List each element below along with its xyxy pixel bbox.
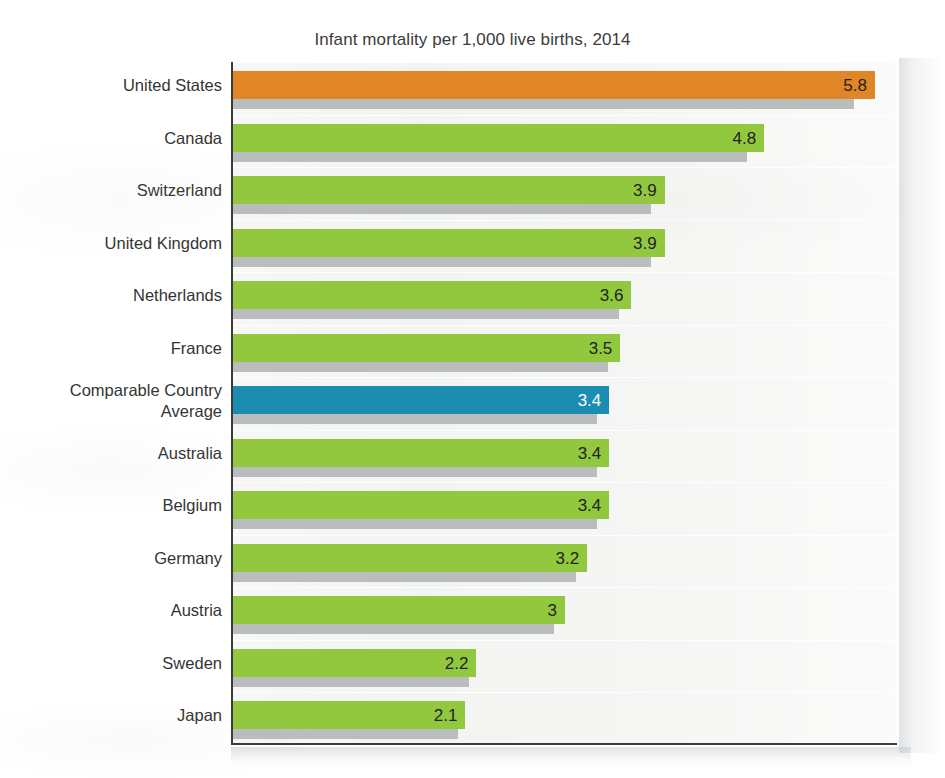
category-label: Canada (0, 128, 222, 149)
gridline (233, 587, 897, 588)
bar-shadow (233, 309, 619, 319)
category-label: Switzerland (0, 180, 222, 201)
category-label: Austria (0, 600, 222, 621)
gridline (233, 692, 897, 693)
bar-row: United States5.8 (0, 62, 945, 115)
bar-row: Comparable CountryAverage3.4 (0, 377, 945, 430)
category-label: Netherlands (0, 285, 222, 306)
bar-shadow (233, 729, 458, 739)
bar-value-label: 5.8 (843, 77, 867, 94)
bar-row: Netherlands3.6 (0, 272, 945, 325)
category-label: Comparable CountryAverage (0, 380, 222, 422)
gridline (233, 115, 897, 116)
gridline (233, 325, 897, 326)
category-label: France (0, 338, 222, 359)
bar[interactable]: 3 (233, 596, 565, 624)
gridline (233, 535, 897, 536)
category-label: Japan (0, 705, 222, 726)
bar[interactable]: 4.8 (233, 124, 764, 152)
category-label-line: Average (0, 401, 222, 422)
bar[interactable]: 3.9 (233, 229, 665, 257)
category-label-line: Comparable Country (0, 380, 222, 401)
bar-shadow (233, 677, 469, 687)
chart-title: Infant mortality per 1,000 live births, … (0, 30, 945, 50)
bar-shadow (233, 624, 554, 634)
bar-shadow (233, 467, 597, 477)
bar-row: Sweden2.2 (0, 640, 945, 693)
bar-shadow (233, 362, 608, 372)
gridline (233, 482, 897, 483)
bar[interactable]: 2.2 (233, 649, 476, 677)
bar-row: Belgium3.4 (0, 482, 945, 535)
bar-row: Japan2.1 (0, 692, 945, 745)
category-label: United Kingdom (0, 233, 222, 254)
bar-rows-container: United States5.8Canada4.8Switzerland3.9U… (0, 62, 945, 745)
gridline (233, 220, 897, 221)
bar[interactable]: 3.6 (233, 281, 631, 309)
bar-value-label: 3.2 (555, 549, 579, 566)
bar-value-label: 3 (548, 602, 557, 619)
category-label: Belgium (0, 495, 222, 516)
bar-row: Canada4.8 (0, 115, 945, 168)
category-label: Sweden (0, 653, 222, 674)
bar-shadow (233, 204, 651, 214)
bar-row: France3.5 (0, 325, 945, 378)
category-label: Australia (0, 443, 222, 464)
bar-row: United Kingdom3.9 (0, 220, 945, 273)
bar[interactable]: 3.4 (233, 386, 609, 414)
bar[interactable]: 3.4 (233, 439, 609, 467)
bar-value-label: 3.9 (633, 182, 657, 199)
bar-shadow (233, 519, 597, 529)
bar-shadow (233, 257, 651, 267)
bar-value-label: 2.2 (445, 654, 469, 671)
bar-shadow (233, 572, 576, 582)
gridline (233, 272, 897, 273)
gridline (233, 430, 897, 431)
bar[interactable]: 3.9 (233, 176, 665, 204)
bar-row: Germany3.2 (0, 535, 945, 588)
bar-value-label: 3.4 (578, 497, 602, 514)
gridline (233, 377, 897, 378)
gridline (233, 640, 897, 641)
bar-row: Austria3 (0, 587, 945, 640)
bar[interactable]: 5.8 (233, 71, 875, 99)
bar-shadow (233, 152, 747, 162)
bar[interactable]: 3.5 (233, 334, 620, 362)
bar-value-label: 3.6 (600, 287, 624, 304)
bar-value-label: 3.9 (633, 234, 657, 251)
category-label: Germany (0, 548, 222, 569)
gridline (233, 62, 897, 63)
page-bottom-shadow (231, 747, 911, 771)
bar-shadow (233, 99, 854, 109)
gridline (233, 167, 897, 168)
bar-row: Switzerland3.9 (0, 167, 945, 220)
bar-value-label: 3.4 (578, 392, 602, 409)
bar[interactable]: 3.2 (233, 544, 587, 572)
bar[interactable]: 2.1 (233, 701, 465, 729)
bar-value-label: 2.1 (434, 707, 458, 724)
bar-row: Australia3.4 (0, 430, 945, 483)
bar-shadow (233, 414, 597, 424)
bar-value-label: 4.8 (733, 129, 757, 146)
bar[interactable]: 3.4 (233, 491, 609, 519)
bar-value-label: 3.5 (589, 339, 613, 356)
bar-value-label: 3.4 (578, 444, 602, 461)
category-label: United States (0, 75, 222, 96)
